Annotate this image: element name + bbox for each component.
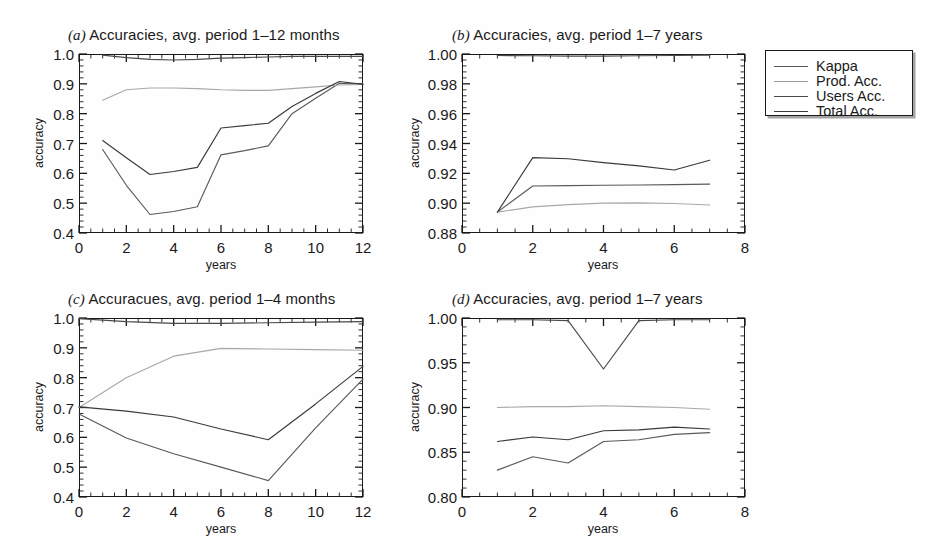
panel-c-xtick-label: 0 bbox=[75, 503, 83, 520]
panel-a-ytick-label: 0.8 bbox=[28, 105, 74, 122]
panel-c-xtick-label: 4 bbox=[169, 503, 177, 520]
legend-swatch bbox=[774, 81, 808, 82]
panel-b-ytick-label: 1.00 bbox=[411, 46, 457, 63]
panel-c-xtick-label: 2 bbox=[122, 503, 130, 520]
legend-label: Users Acc. bbox=[816, 89, 885, 104]
panel-b-ytick-label: 0.96 bbox=[411, 105, 457, 122]
panel-c-xtick-label: 10 bbox=[307, 503, 324, 520]
panel-a-xtick-label: 6 bbox=[217, 239, 225, 256]
series-line-prod-acc bbox=[497, 203, 709, 212]
panel-d-ytick-label: 0.95 bbox=[411, 354, 457, 371]
panel-b-xtick-label: 2 bbox=[529, 239, 537, 256]
panel-b-xtick-label: 4 bbox=[599, 239, 607, 256]
series-line-users-acc bbox=[497, 320, 709, 369]
legend-entry-users-acc[interactable]: Users Acc. bbox=[774, 88, 885, 104]
legend-label: Prod. Acc. bbox=[816, 74, 882, 89]
panel-b-ytick-label: 0.90 bbox=[411, 195, 457, 212]
panel-c-ytick-label: 0.6 bbox=[28, 429, 74, 446]
panel-d-xtick-label: 0 bbox=[458, 503, 466, 520]
panel-c-ytick-label: 0.7 bbox=[28, 399, 74, 416]
panel-d-ytick-label: 0.90 bbox=[411, 399, 457, 416]
legend-swatch bbox=[774, 96, 808, 97]
panel-c-xtick-label: 12 bbox=[355, 503, 372, 520]
panel-c-ytick-label: 0.4 bbox=[28, 489, 74, 506]
series-line-kappa bbox=[497, 433, 709, 471]
panel-c-ytick-label: 0.5 bbox=[28, 459, 74, 476]
series-line-prod-acc bbox=[497, 406, 709, 410]
panel-d-ytick-label: 1.00 bbox=[411, 310, 457, 327]
panel-b-ytick-label: 0.92 bbox=[411, 165, 457, 182]
panel-b-ytick-label: 0.88 bbox=[411, 225, 457, 242]
panel-c-xtick-label: 8 bbox=[264, 503, 272, 520]
panel-a-ytick-label: 0.6 bbox=[28, 165, 74, 182]
panel-a: (a) Accuracies, avg. period 1–12 months … bbox=[0, 0, 400, 280]
legend-entry-kappa[interactable]: Kappa bbox=[774, 58, 858, 74]
series-line-total-acc bbox=[103, 81, 363, 174]
panel-d: (d) Accuracies, avg. period 1–7 years ac… bbox=[400, 262, 760, 551]
panel-c-ytick-label: 1.0 bbox=[28, 310, 74, 327]
panel-a-ytick-label: 0.5 bbox=[28, 195, 74, 212]
legend-entry-total-acc[interactable]: Total Acc. bbox=[774, 103, 878, 119]
panel-b-xtick-label: 6 bbox=[670, 239, 678, 256]
legend-swatch bbox=[774, 111, 808, 112]
panel-a-ytick-label: 1.0 bbox=[28, 46, 74, 63]
panel-d-ytick-label: 0.85 bbox=[411, 444, 457, 461]
panel-b-ytick-label: 0.94 bbox=[411, 135, 457, 152]
series-line-prod-acc bbox=[79, 348, 363, 407]
panel-a-xtick-label: 8 bbox=[264, 239, 272, 256]
series-line-kappa bbox=[103, 83, 363, 214]
panel-c-xtick-label: 6 bbox=[217, 503, 225, 520]
panel-a-xtick-label: 10 bbox=[307, 239, 324, 256]
legend-entry-prod-acc[interactable]: Prod. Acc. bbox=[774, 73, 882, 89]
series-legend: KappaProd. Acc.Users Acc.Total Acc. bbox=[765, 50, 913, 116]
panel-a-xtick-label: 12 bbox=[355, 239, 372, 256]
panel-b: (b) Accuracies, avg. period 1–7 years ac… bbox=[400, 0, 760, 280]
panel-c-ytick-label: 0.8 bbox=[28, 369, 74, 386]
panel-a-xtick-label: 0 bbox=[75, 239, 83, 256]
panel-d-xtick-label: 4 bbox=[599, 503, 607, 520]
panel-a-xtick-label: 4 bbox=[169, 239, 177, 256]
figure-canvas: (a) Accuracies, avg. period 1–12 months … bbox=[0, 0, 925, 551]
series-line-total-acc bbox=[79, 366, 363, 439]
panel-b-xtick-label: 0 bbox=[458, 239, 466, 256]
panel-a-ytick-label: 0.4 bbox=[28, 225, 74, 242]
panel-d-ytick-label: 0.80 bbox=[411, 489, 457, 506]
panel-a-xtick-label: 2 bbox=[122, 239, 130, 256]
panel-d-xtick-label: 2 bbox=[529, 503, 537, 520]
panel-d-xtick-label: 6 bbox=[670, 503, 678, 520]
panel-b-ytick-label: 0.98 bbox=[411, 75, 457, 92]
legend-label: Total Acc. bbox=[816, 104, 878, 119]
panel-c-ytick-label: 0.9 bbox=[28, 339, 74, 356]
series-line-kappa bbox=[79, 379, 363, 480]
panel-a-ytick-label: 0.9 bbox=[28, 75, 74, 92]
legend-swatch bbox=[774, 66, 808, 67]
panel-a-ytick-label: 0.7 bbox=[28, 135, 74, 152]
legend-label: Kappa bbox=[816, 59, 858, 74]
panel-d-xtick-label: 8 bbox=[741, 503, 749, 520]
panel-b-xtick-label: 8 bbox=[741, 239, 749, 256]
panel-c: (c) Accuracues, avg. period 1–4 months a… bbox=[0, 262, 400, 551]
